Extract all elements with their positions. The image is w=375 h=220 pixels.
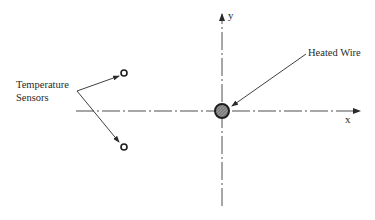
diagram-canvas: Temperature Sensors Heated Wire x y xyxy=(0,0,375,220)
heated-wire-icon xyxy=(215,104,229,118)
diagram-svg xyxy=(0,0,375,220)
temperature-sensor-lower xyxy=(121,144,127,150)
temperature-sensors-label-line1: Temperature xyxy=(16,78,69,91)
heated-wire-label: Heated Wire xyxy=(308,46,361,59)
x-axis-label: x xyxy=(345,113,351,126)
temperature-sensors-label-line2: Sensors xyxy=(16,91,49,104)
sensor-arrows xyxy=(77,76,119,142)
temperature-sensor-upper xyxy=(121,70,127,76)
heated-wire-arrow xyxy=(232,54,306,106)
y-axis-label: y xyxy=(228,9,234,22)
